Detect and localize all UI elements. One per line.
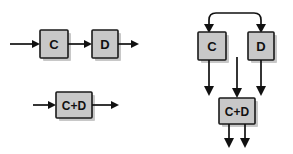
arrow-cd-right-output-left [224, 124, 234, 148]
block-d: D [92, 30, 121, 61]
panel-parallel-feedback: C D [198, 13, 277, 148]
arrow-input-to-c [10, 40, 40, 48]
arrow-bridge-split [204, 13, 266, 33]
arrow-d-to-output [118, 40, 139, 48]
block-cd-right-label: C+D [225, 105, 250, 119]
block-d-right: D [248, 32, 277, 63]
arrow-input-to-cd [33, 101, 56, 109]
block-c-label: C [49, 37, 59, 52]
block-d-label: D [100, 37, 109, 52]
diagram-svg: C D [0, 0, 293, 154]
block-c-right-label: C [207, 39, 217, 54]
arrow-cd-right-output-right [240, 124, 250, 148]
block-cd-right: C+D [219, 98, 258, 127]
arrow-middle-into-cd [232, 57, 242, 98]
panel-serial-chain: C D [10, 30, 139, 61]
panel-combined-block: C+D [33, 92, 119, 121]
block-c-right: C [198, 32, 229, 63]
figure-canvas: C D [0, 0, 293, 154]
block-cd-label: C+D [62, 99, 87, 113]
arrow-d-right-down [256, 60, 266, 96]
arrow-cd-to-output [92, 101, 119, 109]
block-cd: C+D [56, 92, 95, 121]
arrow-c-to-d [68, 40, 92, 48]
arrow-c-right-down [204, 60, 214, 96]
block-d-right-label: D [256, 39, 265, 54]
block-c: C [40, 30, 71, 61]
